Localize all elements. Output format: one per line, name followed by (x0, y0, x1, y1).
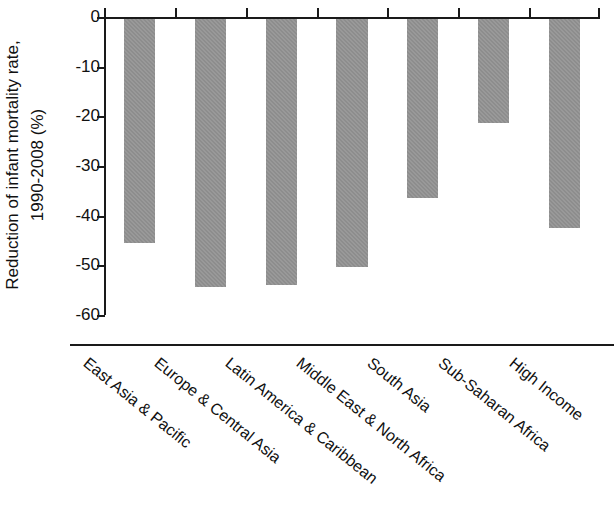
y-axis-tick-label: 0 (54, 7, 100, 27)
bar (407, 19, 438, 198)
x-axis-tick (598, 8, 600, 17)
y-axis-tick-label: -60 (54, 305, 100, 325)
bar (124, 19, 155, 243)
bar (549, 19, 580, 228)
y-axis-tick (97, 67, 105, 69)
y-axis-tick (97, 116, 105, 118)
y-axis-tick-label: -10 (54, 57, 100, 77)
y-axis-title-line1: Reduction of infant mortality rate, (1, 40, 26, 289)
y-axis-tick (97, 216, 105, 218)
x-axis-tick (104, 8, 106, 17)
y-axis-title-line2: 1990-2008 (%) (26, 40, 51, 289)
x-axis-category-label: South Asia (364, 354, 435, 416)
y-axis-tick-label: -30 (54, 156, 100, 176)
bar (266, 19, 297, 285)
x-axis-tick (387, 8, 389, 17)
y-axis-tick-labels: 0-10-20-30-40-50-60 (52, 0, 100, 340)
x-axis-tick (529, 8, 531, 17)
bar (195, 19, 226, 287)
x-axis-category-label: Europe & Central Asia (151, 354, 285, 467)
y-axis-tick (97, 265, 105, 267)
y-axis-tick-label: -50 (54, 255, 100, 275)
y-axis-title: Reduction of infant mortality rate, 1990… (0, 0, 52, 330)
bar (478, 19, 509, 123)
y-axis-tick (97, 166, 105, 168)
plot-area (104, 17, 600, 315)
bar (336, 19, 367, 267)
y-axis-tick (97, 17, 105, 19)
y-axis-tick-label: -20 (54, 106, 100, 126)
x-axis-category-labels: East Asia & PacificEurope & Central Asia… (0, 346, 614, 528)
y-axis-tick-label: -40 (54, 206, 100, 226)
y-axis-tick (97, 315, 105, 317)
chart-figure: Reduction of infant mortality rate, 1990… (0, 0, 614, 528)
x-axis-tick (246, 8, 248, 17)
x-axis-tick (317, 8, 319, 17)
x-axis-tick (175, 8, 177, 17)
x-axis-tick (458, 8, 460, 17)
